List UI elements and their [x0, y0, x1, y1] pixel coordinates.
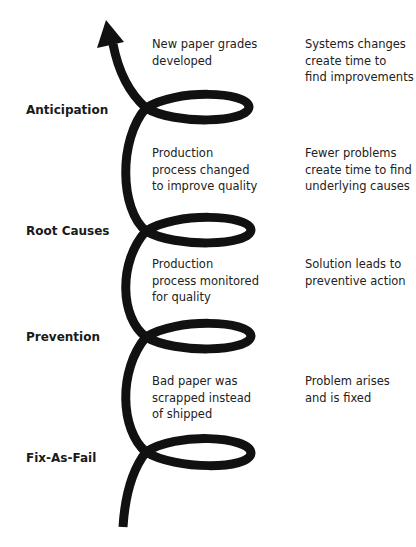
- stage-label-anticipation: Anticipation: [26, 103, 108, 117]
- spiral-diagram: Anticipation New paper grades developed …: [0, 0, 416, 547]
- stage-label-root-causes: Root Causes: [26, 224, 110, 238]
- stage-driver-anticipation: Systems changes create time to find impr…: [305, 36, 416, 86]
- stage-example-prevention: Production process monitored for quality: [152, 256, 292, 306]
- stage-example-root-causes: Production process changed to improve qu…: [152, 145, 292, 195]
- stage-label-fix-as-fail: Fix-As-Fail: [26, 451, 96, 465]
- stage-example-anticipation: New paper grades developed: [152, 36, 292, 69]
- stage-label-prevention: Prevention: [26, 330, 100, 344]
- stage-driver-prevention: Solution leads to preventive action: [305, 256, 416, 289]
- stage-driver-root-causes: Fewer problems create time to find under…: [305, 145, 416, 195]
- stage-driver-fix-as-fail: Problem arises and is fixed: [305, 373, 416, 406]
- stage-example-fix-as-fail: Bad paper was scrapped instead of shippe…: [152, 373, 292, 423]
